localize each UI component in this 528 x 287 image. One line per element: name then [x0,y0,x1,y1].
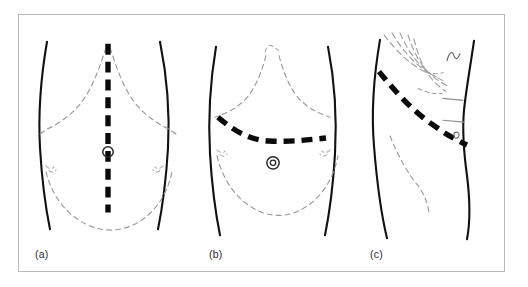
panel-c-drawing [350,15,506,271]
umbilicus-marker [267,157,279,169]
figure-container: (a) (b) [0,0,528,287]
costal-margin-left [38,48,106,136]
pelvic-brim [46,172,172,230]
iliac-crest-line [390,136,429,213]
figure-frame: (a) (b) [18,14,505,272]
iliac-spine-left-marker [46,166,56,172]
scapula-marker [447,53,460,61]
costal-margin-left [215,56,266,118]
pelvic-brim [217,156,338,216]
back-contour-tick-1 [443,98,463,100]
rib-line-4 [408,35,447,86]
panel-b-drawing [187,15,350,271]
iliac-spine-left-marker [217,150,227,156]
panel-a: (a) [19,15,187,271]
costal-margin-tip-upper [426,73,443,74]
panel-b-label: (b) [209,249,222,260]
panel-a-label: (a) [35,249,48,260]
umbilicus-inner-ring [270,160,275,165]
incision-line-transverse [218,117,326,141]
torso-back-outline [463,41,474,239]
back-contour-tick-2 [443,120,464,122]
panel-b: (b) [187,15,350,271]
torso-right-outline [325,47,336,236]
torso-front-outline [373,40,387,238]
iliac-spine-right-marker [153,166,163,172]
costal-margin-right [279,56,330,118]
flank-landmark-marker [454,132,459,138]
costal-margin-tip-lower [418,88,442,93]
xiphisternum-marker [265,45,279,51]
panel-c: (c) [350,15,506,271]
iliac-spine-right-marker [320,150,330,156]
torso-left-outline [39,42,50,230]
torso-left-outline [209,47,220,236]
panel-a-drawing [19,15,187,271]
panel-c-label: (c) [370,249,383,260]
